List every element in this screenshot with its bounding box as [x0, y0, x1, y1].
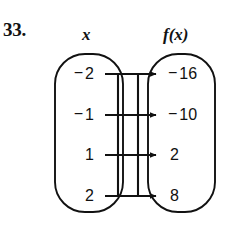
domain-value-1: −2	[74, 66, 94, 82]
range-value-1: −16	[168, 66, 197, 82]
range-value-3-digits: 2	[170, 146, 179, 163]
domain-value-4-digits: 2	[85, 187, 94, 204]
minus-sign-icon: −	[74, 65, 83, 81]
range-value-2: −10	[168, 107, 197, 123]
range-value-4: 8	[168, 188, 179, 204]
range-value-4-digits: 8	[170, 187, 179, 204]
mapping-diagram-figure: 33. x f(x) −2 −1 1 2 −16	[0, 0, 225, 237]
domain-value-2-digits: 1	[85, 106, 94, 123]
domain-value-2: −1	[74, 107, 94, 123]
range-value-2-digits: 10	[179, 106, 197, 123]
domain-value-3: 1	[83, 147, 94, 163]
range-value-1-digits: 16	[179, 65, 197, 82]
minus-sign-icon: −	[168, 106, 177, 122]
domain-value-1-digits: 2	[85, 65, 94, 82]
range-value-3: 2	[168, 147, 179, 163]
minus-sign-icon: −	[74, 106, 83, 122]
minus-sign-icon: −	[168, 65, 177, 81]
domain-value-4: 2	[83, 188, 94, 204]
domain-value-3-digits: 1	[85, 146, 94, 163]
